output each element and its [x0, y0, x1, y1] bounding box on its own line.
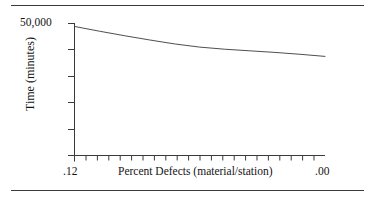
data-series-line	[75, 26, 326, 56]
x-axis-tick-label-right: .00	[315, 166, 329, 178]
y-axis-title: Time (minutes)	[24, 22, 36, 126]
figure-container: 50,000 Time (minutes) .12 Percent Defect…	[0, 0, 374, 201]
x-axis-ticks	[75, 156, 315, 162]
y-axis-ticks	[68, 24, 75, 156]
x-axis-title: Percent Defects (material/station)	[118, 166, 273, 178]
x-axis-tick-label-left: .12	[63, 166, 77, 178]
bottom-horizontal-rule	[11, 190, 364, 191]
